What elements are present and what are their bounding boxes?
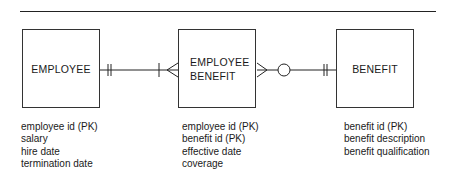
attribute: employee id (PK) [182, 121, 259, 133]
attribute: benefit id (PK) [344, 121, 430, 133]
attribute: termination date [21, 158, 98, 170]
attribute: benefit qualification [344, 146, 430, 158]
entity-employee-benefit: EMPLOYEE BENEFIT [178, 29, 256, 108]
crows-foot-icon [167, 70, 178, 77]
entity-label: EMPLOYEE BENEFIT [190, 55, 249, 83]
entity-label: EMPLOYEE [31, 62, 90, 76]
attribute: hire date [21, 146, 98, 158]
attribute: benefit description [344, 133, 430, 145]
attribute: effective date [182, 146, 259, 158]
crows-foot-icon [167, 63, 178, 70]
attribute: employee id (PK) [21, 121, 98, 133]
crows-foot-icon [257, 63, 267, 70]
crows-foot-icon [257, 70, 267, 77]
benefit-attributes: benefit id (PK) benefit description bene… [344, 121, 430, 158]
attribute: benefit id (PK) [182, 133, 259, 145]
employee-benefit-attributes: employee id (PK) benefit id (PK) effecti… [182, 121, 259, 170]
attribute: coverage [182, 158, 259, 170]
optional-circle-icon [278, 64, 290, 76]
attribute: salary [21, 133, 98, 145]
entity-label: BENEFIT [352, 62, 398, 76]
entity-employee: EMPLOYEE [22, 29, 100, 108]
entity-benefit: BENEFIT [336, 29, 414, 108]
employee-attributes: employee id (PK) salary hire date termin… [21, 121, 98, 170]
